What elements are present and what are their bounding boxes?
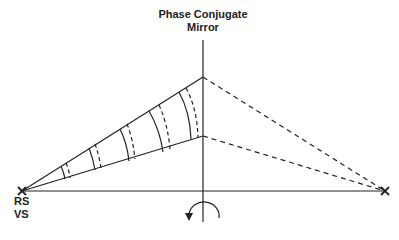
rotation-arrow-icon	[189, 202, 219, 218]
beam-lower-edge	[22, 136, 203, 191]
beam-upper-edge	[22, 77, 203, 191]
phase-conjugate-diagram	[0, 0, 399, 240]
conjugate-wavefronts	[66, 88, 198, 178]
incident-wavefronts	[61, 92, 191, 179]
rotation-arrowhead-icon	[185, 213, 193, 221]
conjugate-beam	[203, 77, 385, 191]
